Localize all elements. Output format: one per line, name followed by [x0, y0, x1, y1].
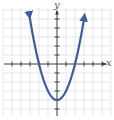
parabola-graph: [0, 0, 114, 120]
y-axis-label: y: [54, 0, 60, 10]
x-axis-label: x: [106, 58, 112, 68]
